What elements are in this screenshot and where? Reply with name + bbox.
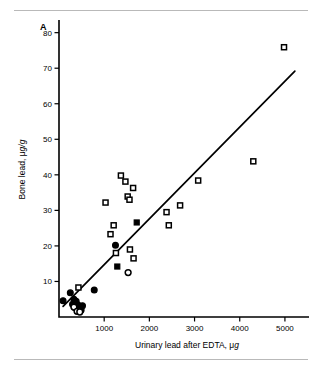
y-axis-title: Bone lead, μg/g bbox=[17, 139, 27, 199]
y-tick-label: 50 bbox=[43, 135, 52, 144]
data-point-open-square bbox=[127, 247, 132, 252]
x-tick-label: 2000 bbox=[140, 324, 158, 333]
regression-line bbox=[63, 71, 295, 306]
data-point-open-square bbox=[111, 223, 116, 228]
y-tick-label: 30 bbox=[43, 206, 52, 215]
y-tick-label: 60 bbox=[43, 100, 52, 109]
data-point-open-circle bbox=[77, 309, 83, 315]
data-point-filled-circle bbox=[67, 290, 73, 296]
data-point-open-circle bbox=[125, 270, 131, 276]
x-axis-title: Urinary lead after EDTA, μg bbox=[135, 340, 239, 350]
y-tick-label: 80 bbox=[43, 29, 52, 38]
scatter-plot: 102030405060708010002000300040005000 Uri… bbox=[0, 0, 322, 367]
data-point-open-square bbox=[123, 179, 128, 184]
data-point-filled-square bbox=[115, 264, 120, 269]
data-point-open-square bbox=[76, 285, 81, 290]
data-point-open-square bbox=[103, 200, 108, 205]
data-point-filled-circle bbox=[113, 242, 119, 248]
data-point-open-square bbox=[196, 178, 201, 183]
data-point-open-square bbox=[127, 197, 132, 202]
x-tick-label: 4000 bbox=[231, 324, 249, 333]
x-tick-label: 5000 bbox=[276, 324, 294, 333]
data-point-open-square bbox=[178, 203, 183, 208]
data-point-open-square bbox=[131, 185, 136, 190]
data-point-filled-square bbox=[134, 220, 139, 225]
data-point-open-square bbox=[131, 256, 136, 261]
data-point-open-square bbox=[282, 45, 287, 50]
figure-panel: A 102030405060708010002000300040005000 U… bbox=[0, 0, 322, 367]
x-tick-label: 3000 bbox=[186, 324, 204, 333]
data-point-open-square bbox=[118, 173, 123, 178]
y-tick-label: 70 bbox=[43, 64, 52, 73]
data-point-open-square bbox=[164, 210, 169, 215]
y-tick-label: 40 bbox=[43, 171, 52, 180]
data-point-open-square bbox=[251, 159, 256, 164]
data-point-open-square bbox=[166, 223, 171, 228]
regression-line bbox=[63, 71, 295, 306]
data-point-open-square bbox=[113, 251, 118, 256]
data-point-open-square bbox=[108, 232, 113, 237]
y-tick-label: 20 bbox=[43, 242, 52, 251]
data-point-filled-circle bbox=[91, 287, 97, 293]
x-tick-label: 1000 bbox=[95, 324, 113, 333]
ticks-group bbox=[55, 33, 285, 322]
data-point-filled-circle bbox=[60, 298, 66, 304]
y-tick-label: 10 bbox=[43, 277, 52, 286]
